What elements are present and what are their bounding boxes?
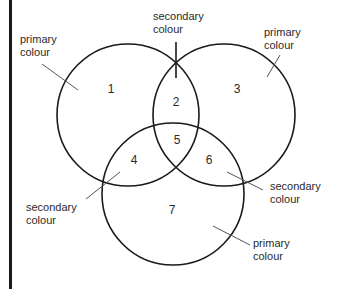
region-3-number: 3 <box>234 82 241 96</box>
venn-diagram-canvas: 1234567 primarycoloursecondarycolourprim… <box>0 0 339 289</box>
secondary-colour-bottom-right-label-line1: secondary <box>270 180 321 192</box>
region-numbers-group: 1234567 <box>108 82 241 217</box>
circle-top-left <box>57 44 199 186</box>
primary-colour-top-left-label-line1: primary <box>20 33 57 45</box>
region-7-number: 7 <box>169 203 176 217</box>
region-1-number: 1 <box>108 82 115 96</box>
region-4-number: 4 <box>131 153 138 167</box>
primary-colour-bottom-label-line1: primary <box>253 237 290 249</box>
leader-lines-group <box>42 42 280 245</box>
secondary-colour-top-label-line1: secondary <box>153 10 204 22</box>
secondary-colour-bottom-left-label-line2: colour <box>26 214 56 226</box>
region-5-number: 5 <box>174 133 181 147</box>
region-6-number: 6 <box>206 153 213 167</box>
secondary-colour-bottom-right-label-line2: colour <box>270 193 300 205</box>
primary-colour-top-right-label-line1: primary <box>264 26 301 38</box>
primary-colour-bottom-label-line2: colour <box>253 250 283 262</box>
primary-colour-bottom-leader-line <box>213 226 250 245</box>
secondary-colour-top-label-line2: colour <box>153 23 183 35</box>
primary-colour-top-right-leader-line <box>267 55 280 77</box>
primary-colour-top-left-label-line2: colour <box>20 46 50 58</box>
region-2-number: 2 <box>173 95 180 109</box>
venn-diagram: 1234567 primarycoloursecondarycolourprim… <box>0 0 339 289</box>
secondary-colour-bottom-left-label-line1: secondary <box>26 201 77 213</box>
secondary-colour-bottom-right-leader-line <box>227 172 263 190</box>
annotation-labels-group: primarycoloursecondarycolourprimarycolou… <box>20 10 321 262</box>
primary-colour-top-right-label-line2: colour <box>264 39 294 51</box>
primary-colour-top-left-leader-line <box>42 64 78 90</box>
